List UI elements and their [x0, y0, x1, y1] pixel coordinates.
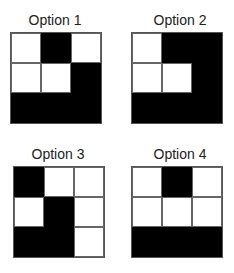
grid-cell-white	[162, 197, 192, 227]
option-2-label: Option 2	[125, 12, 234, 28]
grid-cell-black	[192, 93, 222, 123]
grid-cell-white	[74, 197, 104, 227]
grid-cell-black	[41, 93, 71, 123]
grid-cell-white	[14, 197, 44, 227]
grid-cell-white	[71, 33, 101, 63]
grid-cell-black	[132, 93, 162, 123]
grid-cell-white	[192, 197, 222, 227]
grid-cell-white	[11, 63, 41, 93]
grid-cell-black	[192, 63, 222, 93]
grid-cell-white	[132, 197, 162, 227]
grid-cell-black	[44, 197, 74, 227]
grid-cell-white	[192, 167, 222, 197]
option-4-label: Option 4	[125, 146, 234, 162]
option-1-grid	[10, 32, 102, 124]
grid-cell-white	[132, 33, 162, 63]
grid-cell-black	[192, 227, 222, 257]
grid-cell-black	[71, 63, 101, 93]
grid-cell-black	[162, 227, 192, 257]
grid-cell-white	[132, 63, 162, 93]
grid-cell-black	[11, 93, 41, 123]
grid-cell-white	[44, 167, 74, 197]
grid-cell-black	[41, 33, 71, 63]
option-3-grid	[13, 166, 105, 258]
grid-cell-white	[74, 227, 104, 257]
grid-cell-black	[71, 93, 101, 123]
grid-cell-white	[162, 63, 192, 93]
grid-cell-white	[132, 167, 162, 197]
grid-cell-white	[74, 167, 104, 197]
grid-cell-black	[192, 33, 222, 63]
grid-cell-black	[162, 33, 192, 63]
grid-cell-white	[41, 63, 71, 93]
grid-cell-black	[132, 227, 162, 257]
grid-cell-black	[162, 93, 192, 123]
grid-cell-black	[44, 227, 74, 257]
grid-cell-black	[162, 167, 192, 197]
option-4-grid	[131, 166, 223, 258]
option-1-label: Option 1	[0, 12, 110, 28]
option-2-grid	[131, 32, 223, 124]
grid-cell-black	[14, 227, 44, 257]
grid-cell-white	[11, 33, 41, 63]
grid-cell-black	[14, 167, 44, 197]
option-3-label: Option 3	[3, 146, 113, 162]
